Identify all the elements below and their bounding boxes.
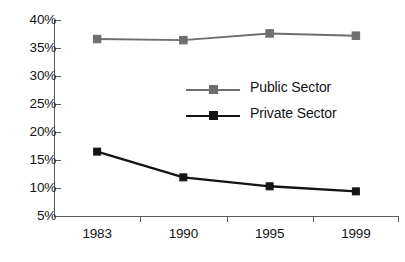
series-marker xyxy=(266,183,273,190)
series-marker xyxy=(180,174,187,181)
chart-legend: Public Sector Private Sector xyxy=(186,76,356,128)
legend-marker xyxy=(209,111,218,120)
legend-label-private-sector: Private Sector xyxy=(250,105,337,121)
series-marker xyxy=(352,188,359,195)
series-marker xyxy=(352,32,360,40)
series-line xyxy=(97,152,356,192)
legend-marker xyxy=(209,85,218,94)
series-marker xyxy=(180,36,188,44)
series-marker xyxy=(93,35,101,43)
series-line xyxy=(97,33,356,40)
legend-swatch-public-sector xyxy=(186,85,240,94)
series-marker xyxy=(94,148,101,155)
series-marker xyxy=(266,30,274,38)
legend-label-public-sector: Public Sector xyxy=(250,79,331,95)
series-plot xyxy=(0,0,405,262)
legend-item-private-sector: Private Sector xyxy=(186,102,356,128)
legend-swatch-private-sector xyxy=(186,111,240,120)
legend-item-public-sector: Public Sector xyxy=(186,76,356,102)
line-chart: 40%35%30%25%20%15%10%5% 1983199019951999… xyxy=(0,0,405,262)
